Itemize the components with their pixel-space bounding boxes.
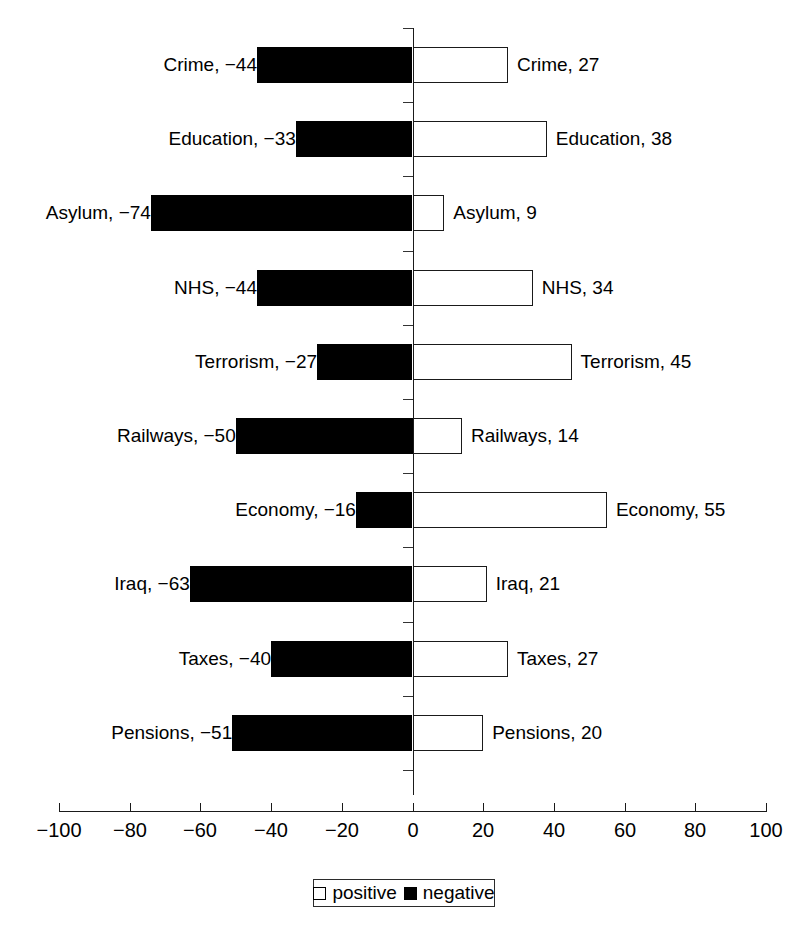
legend-swatch-negative-icon [404, 887, 417, 900]
bar-row: Pensions, −51Pensions, 20 [0, 715, 808, 751]
x-axis: −100−80−60−40−20020406080100 [0, 795, 808, 855]
bar-label-negative: Taxes, −40 [0, 641, 280, 677]
bar-label-negative: Education, −33 [0, 121, 305, 157]
bar-label-negative: Crime, −44 [0, 47, 266, 83]
x-axis-tick-label: 20 [472, 819, 494, 842]
bar-label-positive: Economy, 55 [607, 492, 808, 528]
bar-label-positive: Terrorism, 45 [572, 344, 808, 380]
bar-row: Asylum, −74Asylum, 9 [0, 195, 808, 231]
bar-label-negative: Pensions, −51 [0, 715, 241, 751]
bar-row: Economy, −16Economy, 55 [0, 492, 808, 528]
bar-negative [317, 344, 412, 380]
bar-negative [236, 418, 413, 454]
bar-positive [413, 121, 547, 157]
bar-label-positive: NHS, 34 [533, 270, 808, 306]
bar-label-positive: Railways, 14 [462, 418, 808, 454]
bar-row: Railways, −50Railways, 14 [0, 418, 808, 454]
bar-row: NHS, −44NHS, 34 [0, 270, 808, 306]
x-axis-tick-label: 40 [543, 819, 565, 842]
bar-negative [151, 195, 413, 231]
x-axis-tick-label: −60 [183, 819, 217, 842]
y-axis-minor-tick [403, 399, 413, 400]
bar-label-negative: Economy, −16 [0, 492, 365, 528]
legend-entry-negative: negative [404, 882, 495, 904]
bar-positive [413, 492, 607, 528]
bar-label-negative: Railways, −50 [0, 418, 245, 454]
x-axis-tick-label: 80 [684, 819, 706, 842]
y-axis-minor-tick [403, 102, 413, 103]
x-axis-tick-label: −80 [113, 819, 147, 842]
bar-positive [413, 641, 508, 677]
x-axis-tick [130, 803, 131, 812]
y-axis-minor-tick [403, 473, 413, 474]
bar-row: Terrorism, −27Terrorism, 45 [0, 344, 808, 380]
bar-row: Education, −33Education, 38 [0, 121, 808, 157]
bar-label-negative: NHS, −44 [0, 270, 266, 306]
bar-positive [413, 270, 533, 306]
bar-row: Taxes, −40Taxes, 27 [0, 641, 808, 677]
bar-negative [190, 566, 413, 602]
bar-negative [232, 715, 412, 751]
x-axis-tick [200, 803, 201, 812]
x-axis-tick-label: −100 [36, 819, 81, 842]
y-axis-minor-tick [403, 622, 413, 623]
y-axis-minor-tick [403, 325, 413, 326]
x-axis-tick [59, 803, 60, 812]
bar-negative [257, 47, 413, 83]
bar-label-positive: Education, 38 [547, 121, 808, 157]
bar-positive [413, 418, 462, 454]
bar-label-negative: Asylum, −74 [0, 195, 160, 231]
x-axis-tick-label: 60 [614, 819, 636, 842]
y-axis-minor-tick [403, 176, 413, 177]
bar-label-negative: Terrorism, −27 [0, 344, 326, 380]
x-axis-tick-label: −40 [254, 819, 288, 842]
legend-label: positive [332, 882, 396, 904]
y-axis-minor-tick [403, 770, 413, 771]
plot-area: Crime, −44Crime, 27Education, −33Educati… [0, 0, 808, 800]
legend-entry-positive: positive [313, 882, 396, 904]
bar-positive [413, 195, 445, 231]
y-axis-minor-tick [403, 28, 413, 29]
bar-positive [413, 566, 487, 602]
bar-label-negative: Iraq, −63 [0, 566, 199, 602]
legend-swatch-positive-icon [313, 887, 326, 900]
bar-negative [257, 270, 413, 306]
bar-label-positive: Pensions, 20 [483, 715, 808, 751]
x-axis-tick-label: −20 [325, 819, 359, 842]
x-axis-tick [413, 803, 414, 812]
x-axis-tick [695, 803, 696, 812]
y-axis-minor-tick [403, 696, 413, 697]
legend-label: negative [423, 882, 495, 904]
x-axis-tick [483, 803, 484, 812]
bar-label-positive: Asylum, 9 [444, 195, 808, 231]
y-axis-minor-tick [403, 251, 413, 252]
x-axis-tick [554, 803, 555, 812]
x-axis-tick [271, 803, 272, 812]
bar-row: Crime, −44Crime, 27 [0, 47, 808, 83]
horizontal-diverging-bar-chart: Crime, −44Crime, 27Education, −33Educati… [0, 0, 808, 928]
x-axis-tick [342, 803, 343, 812]
bar-positive [413, 47, 508, 83]
bar-negative [296, 121, 413, 157]
bar-label-positive: Iraq, 21 [487, 566, 808, 602]
bar-label-positive: Crime, 27 [508, 47, 808, 83]
legend: positivenegative [313, 879, 495, 907]
bar-row: Iraq, −63Iraq, 21 [0, 566, 808, 602]
y-axis-minor-tick [403, 547, 413, 548]
bar-negative [271, 641, 412, 677]
x-axis-tick-label: 100 [749, 819, 782, 842]
x-axis-tick [625, 803, 626, 812]
bar-positive [413, 715, 484, 751]
x-axis-tick-label: 0 [407, 819, 418, 842]
bar-label-positive: Taxes, 27 [508, 641, 808, 677]
x-axis-tick [766, 803, 767, 812]
bar-positive [413, 344, 572, 380]
